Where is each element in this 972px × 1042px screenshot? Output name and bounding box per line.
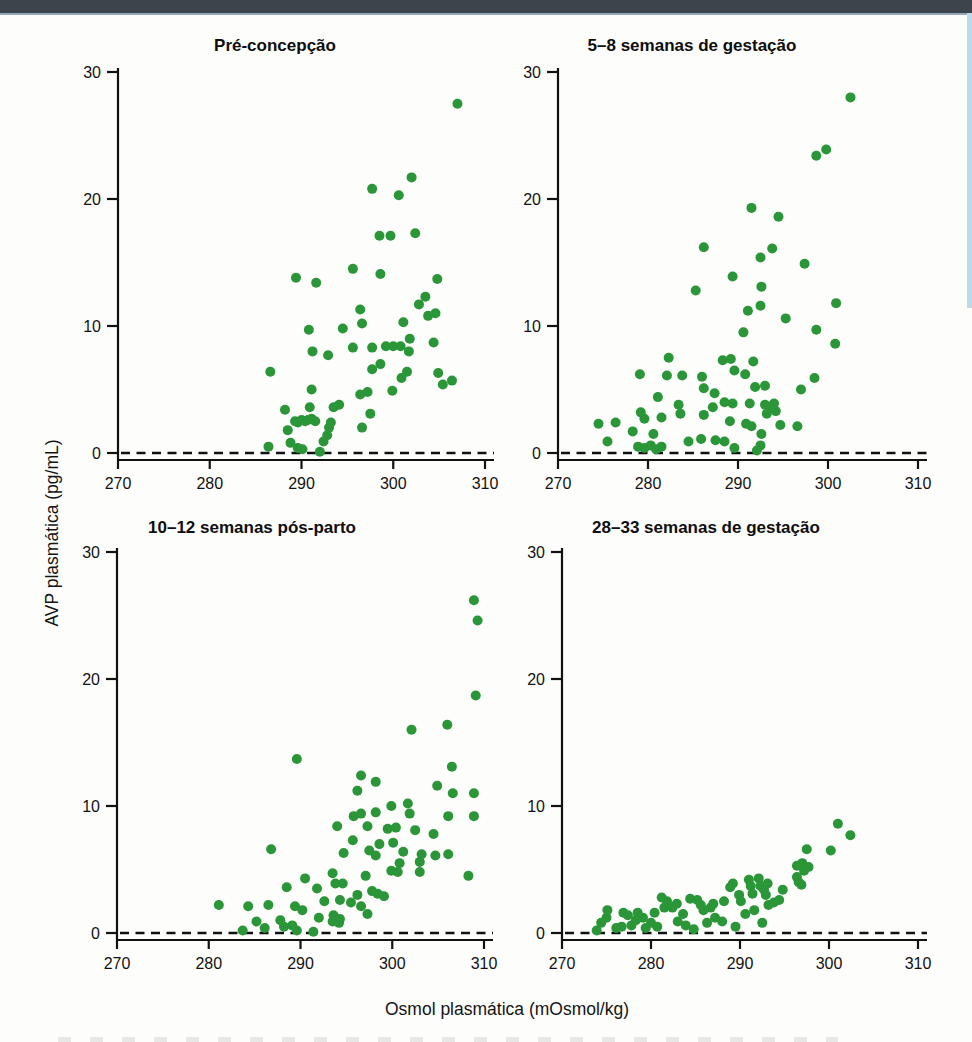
- panel-title-5-8-semanas-gestacao: 5–8 semanas de gestação: [492, 36, 892, 56]
- svg-text:30: 30: [523, 64, 541, 81]
- svg-text:310: 310: [905, 955, 932, 972]
- panel-title-10-12-semanas-pos-parto: 10–12 semanas pós-parto: [52, 518, 452, 538]
- svg-text:300: 300: [380, 475, 407, 492]
- x-axis-label: Osmol plasmática (mOsmol/kg): [207, 999, 807, 1020]
- y-axis-label: AVP plasmática (pg/mL): [42, 439, 63, 626]
- svg-text:270: 270: [545, 475, 572, 492]
- svg-text:10: 10: [523, 318, 541, 335]
- svg-text:10: 10: [82, 798, 100, 815]
- svg-text:290: 290: [727, 955, 754, 972]
- svg-text:0: 0: [91, 925, 100, 942]
- panel-title-28-33-semanas-gestacao: 28–33 semanas de gestação: [506, 518, 906, 538]
- svg-text:270: 270: [105, 475, 132, 492]
- svg-text:310: 310: [471, 955, 498, 972]
- svg-text:0: 0: [536, 925, 545, 942]
- svg-text:270: 270: [104, 955, 131, 972]
- svg-text:20: 20: [82, 671, 100, 688]
- svg-text:280: 280: [635, 475, 662, 492]
- svg-text:300: 300: [379, 955, 406, 972]
- svg-text:30: 30: [527, 544, 545, 561]
- cropped-caption-artifact: [58, 1037, 838, 1042]
- svg-text:280: 280: [638, 955, 665, 972]
- svg-text:290: 290: [287, 955, 314, 972]
- svg-text:30: 30: [83, 64, 101, 81]
- figure-page: 0102030270280290300310010203027028029030…: [0, 0, 972, 1042]
- svg-text:280: 280: [195, 955, 222, 972]
- svg-text:300: 300: [815, 475, 842, 492]
- svg-text:10: 10: [527, 798, 545, 815]
- svg-text:0: 0: [532, 445, 541, 462]
- svg-text:280: 280: [196, 475, 223, 492]
- svg-text:290: 290: [725, 475, 752, 492]
- svg-text:20: 20: [83, 191, 101, 208]
- panel-title-pre-concepcao: Pré-concepção: [75, 36, 475, 56]
- svg-text:310: 310: [472, 475, 499, 492]
- svg-text:300: 300: [816, 955, 843, 972]
- svg-text:20: 20: [523, 191, 541, 208]
- svg-text:310: 310: [905, 475, 932, 492]
- svg-text:0: 0: [92, 445, 101, 462]
- svg-text:290: 290: [288, 475, 315, 492]
- svg-text:10: 10: [83, 318, 101, 335]
- svg-text:270: 270: [549, 955, 576, 972]
- svg-text:20: 20: [527, 671, 545, 688]
- svg-text:30: 30: [82, 544, 100, 561]
